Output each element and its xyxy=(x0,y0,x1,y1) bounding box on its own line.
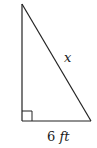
base-unit: ft xyxy=(59,129,69,144)
right-angle-marker xyxy=(22,111,32,121)
hypotenuse xyxy=(22,4,91,121)
base-number: 6 xyxy=(47,129,55,144)
base-label: 6 ft xyxy=(47,130,69,143)
triangle-svg xyxy=(0,0,97,148)
right-triangle-diagram: ft x 6 ft xyxy=(0,0,97,148)
hypotenuse-label: x xyxy=(64,51,71,64)
